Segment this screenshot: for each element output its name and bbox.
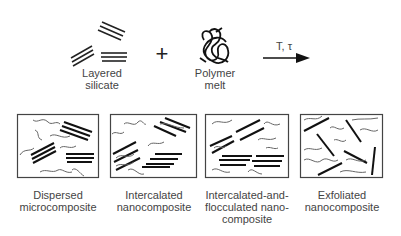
label-line: flocculated nano- bbox=[200, 201, 294, 213]
layered-silicate-icon bbox=[71, 22, 127, 66]
label-line: melt bbox=[185, 79, 245, 91]
label-line: Exfoliated bbox=[296, 189, 388, 201]
label-line: Dispersed bbox=[12, 189, 104, 201]
layered-silicate-label: Layered silicate bbox=[72, 67, 132, 91]
label-line: Layered bbox=[72, 67, 132, 79]
outcome-label-flocculated: Intercalated-and- flocculated nano- comp… bbox=[200, 189, 294, 225]
polymer-coil-icon bbox=[200, 28, 228, 63]
label-line: nanocomposite bbox=[108, 201, 200, 213]
flocculated-nanocomposite-panel bbox=[206, 115, 289, 178]
outcome-label-exfoliated: Exfoliated nanocomposite bbox=[296, 189, 388, 213]
plus-sign: + bbox=[156, 41, 169, 66]
outcome-label-dispersed: Dispersed microcomposite bbox=[12, 189, 104, 213]
label-line: Intercalated bbox=[108, 189, 200, 201]
label-line: microcomposite bbox=[12, 201, 104, 213]
intercalated-nanocomposite-panel bbox=[111, 115, 197, 178]
exfoliated-nanocomposite-panel bbox=[301, 115, 383, 178]
label-line: composite bbox=[200, 213, 294, 225]
process-arrow bbox=[263, 53, 310, 63]
arrow-label: T, τ bbox=[268, 40, 300, 52]
label-line: Polymer bbox=[185, 67, 245, 79]
polymer-melt-label: Polymer melt bbox=[185, 67, 245, 91]
outcome-label-intercalated: Intercalated nanocomposite bbox=[108, 189, 200, 213]
label-line: nanocomposite bbox=[296, 201, 388, 213]
label-line: silicate bbox=[72, 79, 132, 91]
dispersed-microcomposite-panel bbox=[18, 115, 99, 178]
label-line: Intercalated-and- bbox=[200, 189, 294, 201]
